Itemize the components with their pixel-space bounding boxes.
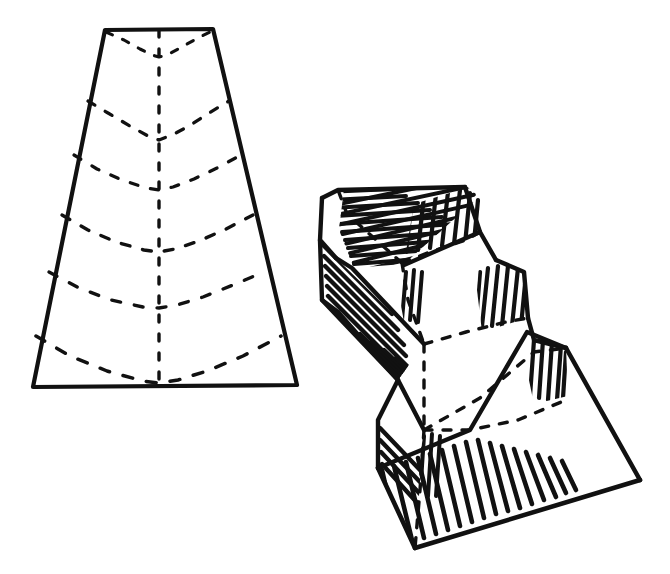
figure-canvas xyxy=(0,0,670,574)
line-drawing-svg xyxy=(0,0,670,574)
